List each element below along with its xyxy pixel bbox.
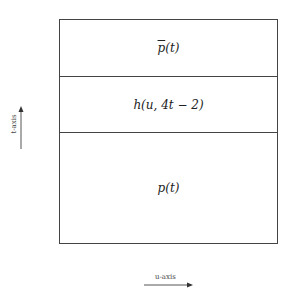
region-bottom: p(t) xyxy=(60,133,277,243)
label-p-bar-t: p(t) xyxy=(158,41,180,55)
label-p-t: p(t) xyxy=(158,181,180,195)
region-middle: h(u, 4t − 2) xyxy=(60,77,277,132)
u-axis: u-axis xyxy=(143,273,195,289)
region-top: p(t) xyxy=(60,20,277,76)
label-h: h(u, 4t − 2) xyxy=(133,98,203,112)
arrow-right-icon xyxy=(143,273,195,289)
t-axis-label: t-axis xyxy=(10,114,18,133)
domain-rectangle: p(t) h(u, 4t − 2) p(t) xyxy=(59,19,278,244)
t-axis: t-axis xyxy=(14,106,30,150)
